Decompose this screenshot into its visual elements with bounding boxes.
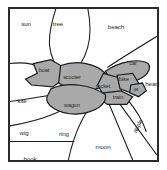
shaded-region-group	[26, 60, 150, 115]
concept-map-figure: sun tree beach boat scooter car rocket b…	[0, 0, 167, 170]
figure-frame: sun tree beach boat scooter car rocket b…	[8, 7, 159, 162]
region-map-svg	[10, 9, 157, 160]
region-jet	[130, 83, 147, 97]
